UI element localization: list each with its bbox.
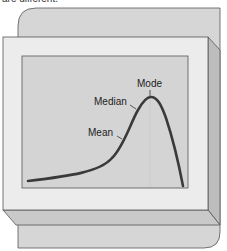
chart-panel: [22, 56, 188, 188]
frame-bevel-right: [208, 37, 220, 225]
frame-bevel-bottom: [3, 210, 220, 225]
median-label: Median: [94, 96, 127, 107]
diagram-scene: [0, 0, 227, 251]
mode-label: Mode: [137, 78, 162, 89]
mean-label: Mean: [88, 127, 113, 138]
